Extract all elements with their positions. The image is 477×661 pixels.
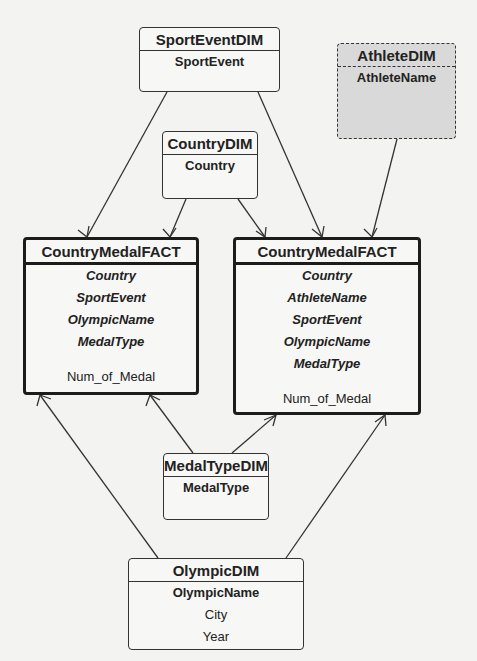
entity-athlete-dim[interactable]: AthleteDIM AthleteName (337, 43, 456, 139)
key-attribute: SportEvent (236, 309, 418, 331)
key-attribute: AthleteName (236, 287, 418, 309)
key-attribute: Country (236, 265, 418, 287)
measure-attribute: Num_of_Medal (236, 391, 418, 406)
entity-olympic-dim[interactable]: OlympicDIM OlympicName City Year (128, 558, 304, 650)
key-attribute: OlympicName (236, 331, 418, 353)
entity-sport-event-dim[interactable]: SportEventDIM SportEvent (139, 27, 280, 92)
key-attribute: MedalType (236, 353, 418, 375)
attribute: Year (129, 626, 303, 648)
attribute: SportEvent (140, 51, 279, 73)
attribute: MedalType (164, 477, 268, 499)
entity-title: CountryMedalFACT (236, 240, 418, 265)
entity-title: CountryDIM (163, 132, 257, 155)
entity-country-medal-fact-right[interactable]: CountryMedalFACT Country AthleteName Spo… (233, 237, 421, 415)
entity-title: AthleteDIM (338, 44, 455, 67)
entity-title: CountryMedalFACT (26, 240, 196, 265)
key-attribute: Country (26, 265, 196, 287)
entity-country-medal-fact-left[interactable]: CountryMedalFACT Country SportEvent Olym… (23, 237, 199, 395)
entity-country-dim[interactable]: CountryDIM Country (162, 131, 258, 199)
entity-medal-type-dim[interactable]: MedalTypeDIM MedalType (163, 453, 269, 520)
key-attribute: MedalType (26, 331, 196, 353)
key-attribute: SportEvent (26, 287, 196, 309)
attribute: Country (163, 155, 257, 177)
entity-title: OlympicDIM (129, 559, 303, 582)
measure-attribute: Num_of_Medal (26, 369, 196, 384)
entity-title: SportEventDIM (140, 28, 279, 51)
attribute: AthleteName (338, 67, 455, 89)
key-attribute: OlympicName (26, 309, 196, 331)
entity-title: MedalTypeDIM (164, 454, 268, 477)
attribute: City (129, 604, 303, 626)
attribute: OlympicName (129, 582, 303, 604)
